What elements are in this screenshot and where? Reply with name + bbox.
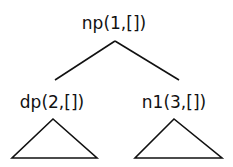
- left-child-node-label: dp(2,[]): [20, 94, 84, 111]
- right-subtree-triangle-icon: [135, 119, 222, 158]
- tree-diagram: np(1,[]) dp(2,[]) n1(3,[]): [0, 0, 233, 167]
- root-node-label: np(1,[]): [82, 15, 146, 32]
- edge-root-to-right: [115, 41, 179, 80]
- right-child-node-label: n1(3,[]): [142, 94, 206, 111]
- left-subtree-triangle-icon: [12, 119, 97, 158]
- edge-root-to-left: [55, 41, 115, 80]
